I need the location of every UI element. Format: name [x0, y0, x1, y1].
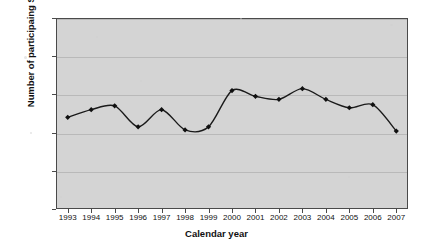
data-point-2001 — [253, 94, 258, 99]
x-tick-label-1996: 1996 — [129, 213, 147, 222]
scan-artifact — [348, 176, 350, 178]
x-tick-label-2006: 2006 — [364, 213, 382, 222]
x-tick-label-2003: 2003 — [293, 213, 311, 222]
x-tick-mark-2001 — [255, 209, 256, 213]
data-point-1996 — [136, 124, 141, 129]
x-tick-label-2001: 2001 — [247, 213, 265, 222]
x-tick-mark-2002 — [279, 209, 280, 213]
x-tick-mark-2006 — [373, 209, 374, 213]
scan-artifact — [30, 132, 32, 134]
scan-artifact — [140, 80, 142, 82]
data-point-1994 — [89, 107, 94, 112]
x-tick-mark-1993 — [68, 209, 69, 213]
data-point-1997 — [159, 107, 164, 112]
x-tick-mark-2007 — [396, 209, 397, 213]
data-point-2002 — [276, 97, 281, 102]
x-tick-label-2007: 2007 — [387, 213, 405, 222]
x-tick-label-2000: 2000 — [223, 213, 241, 222]
x-tick-mark-1995 — [115, 209, 116, 213]
x-tick-mark-2005 — [349, 209, 350, 213]
data-point-2005 — [347, 105, 352, 110]
series-path — [68, 89, 397, 132]
x-tick-mark-1998 — [185, 209, 186, 213]
x-tick-label-1999: 1999 — [200, 213, 218, 222]
scan-artifact — [24, 56, 27, 59]
x-tick-mark-2004 — [326, 209, 327, 213]
x-tick-label-1998: 1998 — [176, 213, 194, 222]
scan-artifact — [60, 196, 62, 198]
data-point-2003 — [300, 86, 305, 91]
chart-container: Number of participaing States 0102030405… — [0, 0, 433, 245]
x-tick-mark-1994 — [91, 209, 92, 213]
x-tick-label-2005: 2005 — [340, 213, 358, 222]
data-series-line — [56, 18, 408, 209]
data-point-2004 — [323, 97, 328, 102]
x-tick-label-2002: 2002 — [270, 213, 288, 222]
x-axis-title: Calendar year — [0, 228, 433, 239]
x-tick-mark-1999 — [209, 209, 210, 213]
x-tick-label-1993: 1993 — [59, 213, 77, 222]
x-tick-mark-2003 — [302, 209, 303, 213]
scan-artifact — [96, 36, 98, 38]
x-tick-mark-1996 — [138, 209, 139, 213]
scan-artifact — [390, 24, 393, 26]
data-point-1993 — [65, 115, 70, 120]
x-tick-label-2004: 2004 — [317, 213, 335, 222]
x-tick-mark-1997 — [162, 209, 163, 213]
x-tick-label-1995: 1995 — [106, 213, 124, 222]
scan-artifact — [240, 18, 242, 20]
x-tick-label-1997: 1997 — [153, 213, 171, 222]
x-tick-mark-2000 — [232, 209, 233, 213]
x-tick-label-1994: 1994 — [82, 213, 100, 222]
